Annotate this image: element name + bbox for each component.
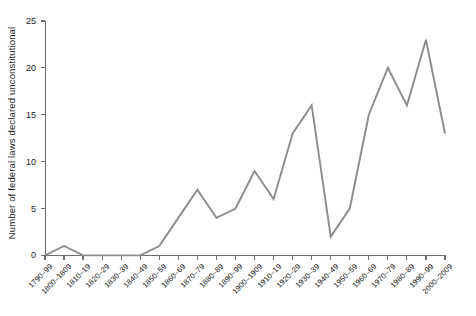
y-axis-tick-label: 20 (14, 63, 36, 73)
y-axis-tick-label: 25 (14, 16, 36, 26)
y-axis-label: Number of federal laws declared unconsti… (0, 0, 22, 266)
line-chart: Number of federal laws declared unconsti… (0, 0, 476, 316)
x-axis-tick (349, 256, 350, 261)
x-axis-tick (197, 256, 198, 261)
x-axis-tick (44, 256, 45, 261)
x-axis-tick (102, 256, 103, 261)
y-axis-tick-label: 0 (14, 250, 36, 260)
x-axis-tick (254, 256, 255, 261)
x-axis-tick (140, 256, 141, 261)
x-axis-tick (292, 256, 293, 261)
x-axis-tick (63, 256, 64, 261)
x-axis-line (45, 255, 446, 256)
y-axis-tick-label: 15 (14, 110, 36, 120)
y-axis-tick-label: 5 (14, 204, 36, 214)
x-axis-tick (273, 256, 274, 261)
x-axis-tick (121, 256, 122, 261)
x-axis-tick (82, 256, 83, 261)
x-axis-tick (387, 256, 388, 261)
series-polyline (45, 40, 445, 256)
x-axis-tick (330, 256, 331, 261)
x-axis-tick (311, 256, 312, 261)
x-axis-tick (406, 256, 407, 261)
x-axis-tick (159, 256, 160, 261)
x-axis-tick (368, 256, 369, 261)
y-axis-tick-label: 10 (14, 157, 36, 167)
x-axis-tick (178, 256, 179, 261)
x-axis-tick (216, 256, 217, 261)
x-axis-tick (425, 256, 426, 261)
x-axis-tick (235, 256, 236, 261)
x-axis-tick (444, 256, 445, 261)
y-axis-line (45, 21, 46, 256)
